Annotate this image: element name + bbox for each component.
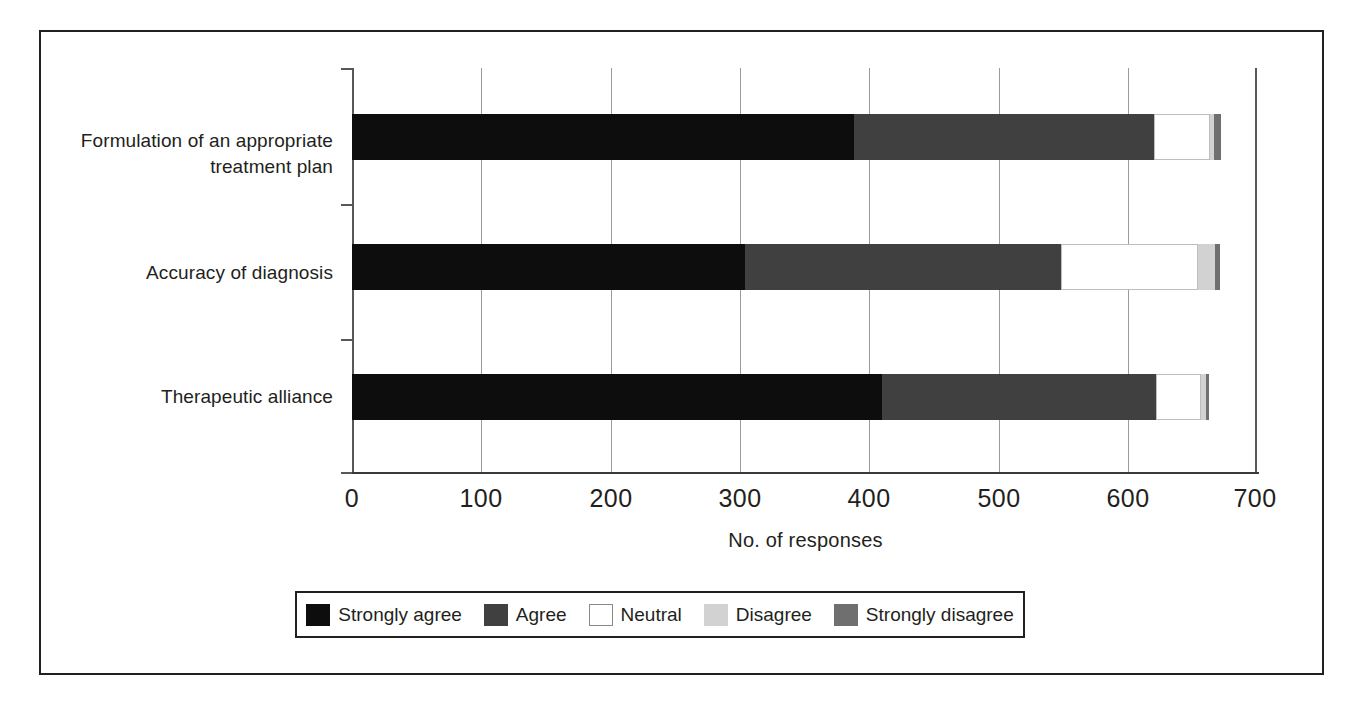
legend-swatch-icon [306, 604, 330, 626]
legend-label: Strongly disagree [866, 604, 1014, 626]
bar-segment-disagree [1198, 244, 1215, 290]
legend-item-agree[interactable]: Agree [484, 604, 567, 626]
category-label-1: Accuracy of diagnosis [53, 260, 333, 286]
y-axis-tick-1 [341, 204, 352, 206]
bar-segment-neutral [1061, 244, 1198, 290]
xtick-label-200: 200 [571, 484, 651, 513]
bar-row-1 [352, 244, 1220, 290]
legend-item-strongly-disagree[interactable]: Strongly disagree [834, 604, 1014, 626]
bar-row-2 [352, 374, 1209, 420]
category-label-0: Formulation of an appropriate treatment … [53, 128, 333, 180]
bar-segment-strongly-agree [352, 374, 882, 420]
legend-label: Disagree [736, 604, 812, 626]
bar-segment-agree [882, 374, 1156, 420]
legend-label: Agree [516, 604, 567, 626]
y-axis-tick-2 [341, 339, 352, 341]
x-axis-title: No. of responses [352, 529, 1259, 552]
legend-swatch-icon [589, 604, 613, 626]
legend-swatch-icon [484, 604, 508, 626]
xtick-label-100: 100 [441, 484, 521, 513]
category-label-0-line-1: treatment plan [53, 154, 333, 180]
plot-area [352, 68, 1257, 472]
category-label-2-line-0: Therapeutic alliance [53, 384, 333, 410]
bar-row-0 [352, 114, 1221, 160]
xtick-label-700: 700 [1215, 484, 1295, 513]
category-label-0-line-0: Formulation of an appropriate [53, 128, 333, 154]
xtick-label-400: 400 [829, 484, 909, 513]
bar-segment-strongly-disagree [1214, 114, 1221, 160]
xtick-label-600: 600 [1088, 484, 1168, 513]
legend-item-neutral[interactable]: Neutral [589, 604, 682, 626]
xtick-label-0: 0 [312, 484, 392, 513]
bar-segment-neutral [1154, 114, 1210, 160]
legend-swatch-icon [834, 604, 858, 626]
gridline-700 [1255, 68, 1257, 472]
category-label-2: Therapeutic alliance [53, 384, 333, 410]
chart-figure: Formulation of an appropriate treatment … [39, 30, 1324, 675]
legend-item-disagree[interactable]: Disagree [704, 604, 812, 626]
legend-swatch-icon [704, 604, 728, 626]
bar-segment-strongly-agree [352, 244, 745, 290]
bar-segment-agree [854, 114, 1154, 160]
legend-label: Strongly agree [338, 604, 462, 626]
legend-item-strongly-agree[interactable]: Strongly agree [306, 604, 462, 626]
legend-label: Neutral [621, 604, 682, 626]
xtick-label-300: 300 [700, 484, 780, 513]
bar-segment-agree [745, 244, 1061, 290]
xtick-label-500: 500 [959, 484, 1039, 513]
bar-segment-neutral [1156, 374, 1201, 420]
bar-segment-strongly-agree [352, 114, 854, 160]
bar-segment-strongly-disagree [1215, 244, 1220, 290]
y-axis-tick-bottom [341, 472, 352, 474]
chart-legend: Strongly agree Agree Neutral Disagree St… [295, 591, 1025, 638]
y-axis-tick-top [341, 68, 352, 70]
bar-segment-strongly-disagree [1206, 374, 1209, 420]
x-axis-line [352, 472, 1259, 474]
category-label-1-line-0: Accuracy of diagnosis [53, 260, 333, 286]
